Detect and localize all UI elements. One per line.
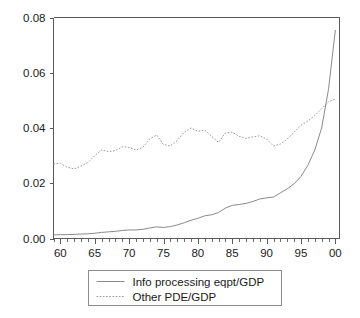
y-tick-label-4: 0.08 — [23, 12, 45, 24]
x-tick-label-6: 90 — [260, 247, 273, 259]
chart-ticks — [50, 19, 336, 244]
x-tick-label-7: 95 — [295, 247, 308, 259]
x-tick-label-1: 65 — [88, 247, 101, 259]
chart-axes — [54, 18, 340, 239]
x-tick-label-3: 75 — [157, 247, 170, 259]
series-other-pde-gdp — [54, 99, 336, 169]
legend-label-0: Info processing eqpt/GDP — [133, 276, 265, 288]
x-tick-label-2: 70 — [123, 247, 136, 259]
series-info-processing-eqpt-gdp — [54, 30, 336, 235]
y-tick-label-3: 0.06 — [23, 67, 45, 79]
x-tick-label-4: 80 — [191, 247, 204, 259]
chart-series — [54, 30, 336, 235]
chart-page: 0.000.020.040.060.08 606570758085909500 … — [0, 0, 360, 318]
y-axis-tick-labels: 0.000.020.040.060.08 — [23, 12, 46, 245]
line-chart: 0.000.020.040.060.08 606570758085909500 … — [0, 0, 360, 318]
x-axis-tick-labels: 606570758085909500 — [54, 247, 342, 259]
x-tick-label-8: 00 — [329, 247, 342, 259]
x-tick-label-5: 85 — [226, 247, 239, 259]
x-tick-label-0: 60 — [54, 247, 67, 259]
chart-legend[interactable]: Info processing eqpt/GDPOther PDE/GDP — [89, 271, 282, 306]
y-tick-label-0: 0.00 — [23, 233, 45, 245]
legend-label-1: Other PDE/GDP — [133, 291, 217, 303]
y-tick-label-2: 0.04 — [23, 122, 46, 134]
y-tick-label-1: 0.02 — [23, 177, 45, 189]
